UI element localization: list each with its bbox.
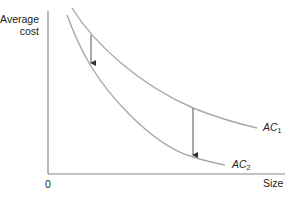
x-axis-label: Size (263, 177, 283, 189)
y-axis-label-line1: Average (0, 13, 39, 25)
ac2-label: AC2 (232, 158, 251, 171)
ac1-label-main: AC (263, 121, 278, 133)
y-axis-label: Average cost (0, 13, 39, 37)
ac1-curve (72, 8, 257, 128)
ac1-label: AC1 (263, 121, 282, 134)
origin-label: 0 (45, 178, 51, 190)
chart-canvas (0, 0, 302, 203)
ac1-label-sub: 1 (278, 127, 282, 134)
ac2-label-sub: 2 (247, 164, 251, 171)
ac2-label-main: AC (232, 158, 247, 170)
y-axis-label-line2: cost (0, 25, 39, 37)
